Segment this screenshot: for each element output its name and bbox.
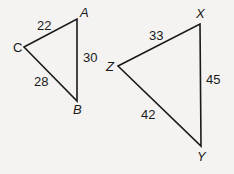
- side-label-xy: 45: [206, 72, 220, 87]
- vertex-label-x: X: [195, 6, 206, 21]
- side-label-ab: 30: [83, 50, 97, 65]
- similar-triangles-diagram: A B C 22 30 28 X Y Z 33 45 42: [0, 0, 234, 174]
- triangle-abc: A B C 22 30 28: [13, 5, 97, 117]
- side-label-zy: 42: [141, 107, 155, 122]
- triangle-xyz: X Y Z 33 45 42: [105, 6, 220, 164]
- side-label-cb: 28: [34, 74, 48, 89]
- side-label-zx: 33: [149, 28, 163, 43]
- vertex-label-y: Y: [197, 149, 207, 164]
- vertex-label-z: Z: [105, 59, 115, 74]
- vertex-label-b: B: [73, 102, 82, 117]
- vertex-label-c: C: [13, 40, 22, 55]
- side-label-ca: 22: [37, 18, 51, 33]
- vertex-label-a: A: [79, 5, 89, 20]
